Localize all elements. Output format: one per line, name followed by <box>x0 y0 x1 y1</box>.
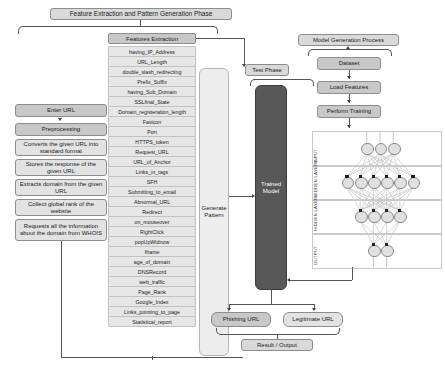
result-output-box: Result / Output <box>241 339 313 351</box>
nn-node-connector <box>411 175 414 178</box>
nn-node-connector <box>372 243 375 246</box>
nn-output-line-v <box>352 267 353 280</box>
preprocessing-step-2: Stores the response of the given URL <box>15 159 107 176</box>
nn-node <box>368 245 381 258</box>
test-phase-box: Test Phase <box>245 64 289 76</box>
nn-node <box>355 177 368 190</box>
nn-node-connector <box>372 209 375 212</box>
load-features-box: Load Features <box>317 81 381 94</box>
nn-node-connector <box>385 243 388 246</box>
feature-phase-banner: Feature Extraction and Pattern Generatio… <box>50 8 232 20</box>
arrow-load-to-training <box>347 100 351 103</box>
nn-node <box>368 177 381 190</box>
nn-node <box>368 211 381 224</box>
dataset-box: Dataset <box>317 57 381 70</box>
features-to-generate-line-v <box>244 38 245 64</box>
banner-stem <box>140 20 141 26</box>
arrow-enter-to-preprocessing <box>58 118 62 121</box>
nn-layer-label: HIDDEN LAYER2 <box>313 201 318 231</box>
nn-node-connector <box>398 209 401 212</box>
model-generation-banner: Model Generation Process <box>298 34 399 46</box>
arrow-to-legitimate <box>312 308 316 311</box>
features-extraction-header: Features Extraction <box>108 33 196 44</box>
nn-node <box>355 211 368 224</box>
model-generation-brace <box>308 49 392 56</box>
nn-node <box>388 143 401 156</box>
neural-network-panel: INPUTHIDDEN LAYER1HIDDEN LAYER2OUTPUT <box>312 131 440 267</box>
enter-url-box[interactable]: Enter URL <box>15 104 107 117</box>
nn-node-connector <box>385 175 388 178</box>
arrow-to-phishing <box>227 308 231 311</box>
trained-model-box: Trained Model <box>255 85 287 290</box>
nn-node-connector <box>398 175 401 178</box>
nn-node-connector <box>372 175 375 178</box>
preprocessing-output-line <box>61 241 62 357</box>
preprocessing-box[interactable]: Preprocessing <box>15 123 107 136</box>
nn-node-connector <box>359 209 362 212</box>
preprocessing-step-4: Collect global rank of the website <box>15 199 107 216</box>
legitimate-url-box: Legitimate URL <box>283 312 343 327</box>
trained-model-out-v <box>271 290 272 304</box>
outputs-fan-h <box>229 304 315 305</box>
feature-item: Statistical_report <box>108 316 196 327</box>
preprocessing-step-5: Requests all the information about the d… <box>15 219 107 241</box>
generate-to-trained-line <box>229 196 253 197</box>
nn-output-line-h <box>290 280 352 281</box>
nn-layer-label: INPUT <box>313 133 318 163</box>
nn-node-connector <box>385 209 388 212</box>
perform-training-box: Perform Training <box>317 105 381 118</box>
arrow-nn-to-trained-model <box>287 278 290 282</box>
nn-layer-label: HIDDEN LAYER1 <box>313 167 318 197</box>
features-to-generate-line-h <box>196 38 244 39</box>
preprocessing-step-3: Extracts domain from the given URL <box>15 179 107 196</box>
arrow-training-to-network <box>347 125 351 128</box>
preprocessing-step-1: Converts the given URL into standard for… <box>15 139 107 156</box>
arrow-dataset-to-load <box>347 76 351 79</box>
features-bottom-line-v <box>152 356 153 360</box>
nn-node-connector <box>359 175 362 178</box>
outputs-brace <box>216 328 340 335</box>
features-list: having_IP_AddressURL_Lengthdouble_slash_… <box>108 46 196 327</box>
phishing-url-box: Phishing URL <box>211 312 271 327</box>
arrow-up-model-generation <box>346 46 350 49</box>
nn-layer-label: OUTPUT <box>313 235 318 265</box>
nn-node-connector <box>345 175 348 178</box>
